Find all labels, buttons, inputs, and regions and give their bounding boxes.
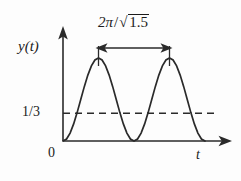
origin-label: 0 <box>48 146 55 160</box>
x-axis-label: t <box>196 148 200 162</box>
y-axis-label: y(t) <box>18 39 39 54</box>
radical-sign-icon: √ <box>119 15 127 30</box>
waveform-figure: y(t) t 0 1/3 2π/√1.5 <box>0 0 241 181</box>
threshold-value-label: 1/3 <box>22 105 40 119</box>
period-radicand: 1.5 <box>128 14 149 30</box>
period-annotation-label: 2π/√1.5 <box>98 14 149 30</box>
x-axis <box>63 136 232 146</box>
period-measure-arrow <box>96 43 173 66</box>
period-numerator: 2π <box>98 14 113 30</box>
period-radical: √1.5 <box>119 14 149 30</box>
waveform-curve <box>63 58 205 141</box>
y-axis <box>58 26 68 141</box>
